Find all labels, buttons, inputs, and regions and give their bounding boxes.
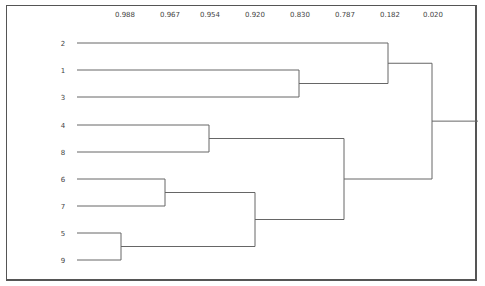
leaf-label: 6 bbox=[61, 176, 66, 184]
scale-label: 0.988 bbox=[115, 11, 135, 19]
leaf-label: 8 bbox=[61, 149, 65, 157]
similarity-scale: 0.9880.9670.9540.9200.8300.7870.1820.020 bbox=[115, 11, 443, 19]
scale-label: 0.967 bbox=[160, 11, 180, 19]
leaf-label: 1 bbox=[61, 67, 65, 75]
dendrogram: 0.9880.9670.9540.9200.8300.7870.1820.020… bbox=[0, 0, 485, 286]
leaf-label: 9 bbox=[61, 257, 65, 265]
leaf-label: 5 bbox=[61, 230, 65, 238]
leaf-label: 4 bbox=[61, 122, 66, 130]
leaf-label: 7 bbox=[61, 203, 65, 211]
scale-label: 0.830 bbox=[290, 11, 310, 19]
scale-label: 0.182 bbox=[380, 11, 400, 19]
leaf-labels: 213486759 bbox=[61, 40, 66, 265]
scale-label: 0.787 bbox=[335, 11, 355, 19]
scale-label: 0.954 bbox=[200, 11, 221, 19]
scale-label: 0.920 bbox=[245, 11, 265, 19]
scale-label: 0.020 bbox=[423, 11, 443, 19]
branches bbox=[77, 43, 478, 260]
leaf-label: 3 bbox=[61, 94, 65, 102]
leaf-label: 2 bbox=[61, 40, 65, 48]
